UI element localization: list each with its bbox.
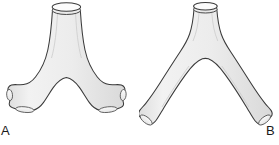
airway-body-b [139, 9, 272, 124]
panel-label-b: B [266, 124, 275, 137]
tracheal-rim-a [52, 3, 80, 12]
trachea-diagram-b [139, 0, 279, 145]
panel-a: A [0, 0, 139, 145]
trachea-top-b [194, 2, 218, 13]
figure-root: A [0, 0, 279, 145]
trachea-diagram-a [0, 0, 139, 145]
trachea-and-bronchi-outline-a [8, 10, 125, 111]
trachea-and-bronchi-outline-b [139, 9, 272, 124]
panel-label-a: A [1, 124, 10, 137]
airway-body-a [8, 10, 125, 111]
panel-b: B [139, 0, 279, 145]
trachea-top-a [52, 3, 81, 15]
tracheal-rim-b [194, 2, 218, 10]
